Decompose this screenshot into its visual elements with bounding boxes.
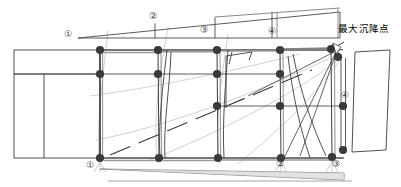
marker-bottom-3: ③	[332, 160, 340, 169]
marker-bottom-1: ①	[86, 161, 94, 170]
main-frame-outline	[100, 50, 344, 158]
node	[155, 154, 163, 162]
horizontal-beams	[14, 50, 343, 158]
node	[339, 146, 347, 154]
left-panel	[14, 50, 100, 158]
node	[276, 46, 284, 54]
dashed-diagonal	[110, 70, 312, 155]
marker-top-3: ③	[200, 26, 208, 35]
node	[154, 70, 162, 78]
thick-top-right-beam	[282, 49, 332, 50]
node	[276, 70, 284, 78]
node	[96, 154, 104, 162]
node	[96, 70, 104, 78]
top-wedge-secondary	[215, 8, 340, 38]
max-settlement-point-label: 最大沉降点	[338, 24, 390, 34]
marker-top-1: ①	[64, 30, 72, 39]
node	[96, 46, 104, 54]
node	[214, 154, 222, 162]
node	[276, 102, 284, 110]
node	[339, 102, 347, 110]
right-panel	[352, 50, 390, 152]
node	[334, 53, 342, 61]
marker-top-2: ②	[149, 12, 157, 21]
node	[213, 70, 221, 78]
top-wedge-profile	[78, 12, 340, 38]
max-settlement-leaders	[248, 52, 336, 158]
marker-top-4: ④	[268, 27, 276, 36]
node	[213, 102, 221, 110]
node	[213, 46, 221, 54]
settlement-diagram: ① ② ③ ④ ① ② ③ ④ 最大沉降点	[0, 0, 401, 187]
marker-bottom-2: ②	[276, 160, 284, 169]
deformed-members	[160, 50, 326, 158]
node	[154, 46, 162, 54]
marker-right-4: ④	[341, 91, 349, 100]
